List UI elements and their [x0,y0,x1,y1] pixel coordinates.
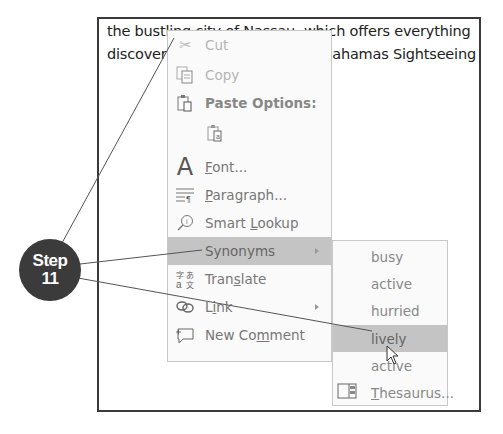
link-icon [174,296,196,318]
menu-item-paragraph[interactable]: ¶ Paragraph... [168,181,331,209]
menu-item-font[interactable]: A Font... [168,153,331,181]
copy-icon [174,64,196,86]
font-icon: A [174,156,196,178]
submenu-arrow-icon [315,304,319,310]
svg-text:a: a [216,133,220,140]
paste-keep-text-only-button[interactable]: a [168,119,331,147]
font-label: ont... [212,159,247,175]
svg-text:¶: ¶ [186,194,191,203]
synonym-item[interactable]: active [333,270,447,297]
context-menu: ✂ Cut Copy Paste Options: a A Font... ¶ … [167,30,332,362]
menu-item-cut[interactable]: ✂ Cut [168,31,331,59]
translate-icon: 字あa文 [174,268,196,290]
menu-item-new-comment[interactable]: New Comment [168,321,331,349]
paragraph-icon: ¶ [174,184,196,206]
svg-text:文: 文 [186,280,194,289]
paragraph-label: aragraph... [213,187,288,203]
thesaurus-icon [337,383,357,403]
menu-item-synonyms[interactable]: Synonyms [168,237,331,265]
document-text-start: discover [107,46,167,62]
smart-lookup-icon: i [174,212,196,234]
paste-icon [174,92,196,114]
mouse-cursor-icon [386,345,400,365]
svg-text:a: a [176,279,182,289]
svg-text:あ: あ [186,271,194,280]
thesaurus-item[interactable]: Thesaurus... [333,379,447,406]
menu-item-copy[interactable]: Copy [168,61,331,89]
menu-item-link[interactable]: Link [168,293,331,321]
submenu-arrow-icon [315,248,319,254]
document-text-end: Bahamas Sightseeing [323,46,476,62]
step-callout-badge: Step 11 [19,239,81,301]
menu-paste-options-header: Paste Options: [168,89,331,117]
synonym-item[interactable]: hurried [333,297,447,324]
new-comment-icon [174,324,196,346]
menu-item-translate[interactable]: 字あa文 Translate [168,265,331,293]
scissors-icon: ✂ [174,34,196,56]
paste-keep-text-icon: a [204,122,226,144]
synonyms-submenu: busy active hurried lively active Thesau… [332,240,448,406]
synonym-item[interactable]: busy [333,243,447,270]
menu-item-smart-lookup[interactable]: i Smart Lookup [168,209,331,237]
svg-text:i: i [186,218,188,225]
